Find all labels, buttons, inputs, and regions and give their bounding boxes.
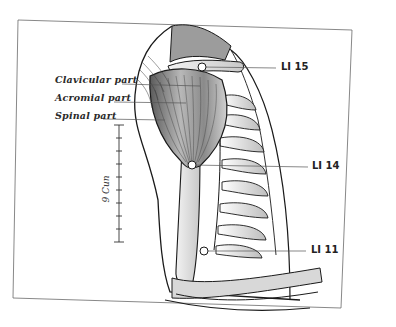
label-9-cun: 9 Cun — [101, 175, 111, 202]
label-li14: LI 14 — [312, 160, 340, 171]
label-spinal-part: Spinal part — [55, 110, 116, 121]
label-acromial-part: Acromial part — [55, 92, 131, 103]
label-li11: LI 11 — [311, 244, 339, 255]
label-li15: LI 15 — [281, 61, 309, 72]
li11-marker — [200, 247, 208, 255]
anatomy-diagram: Clavicular part Acromial part Spinal par… — [0, 0, 396, 327]
label-clavicular-part: Clavicular part — [55, 74, 137, 85]
li14-marker — [188, 161, 196, 169]
cun-scale — [114, 125, 124, 242]
li15-marker — [198, 63, 206, 71]
